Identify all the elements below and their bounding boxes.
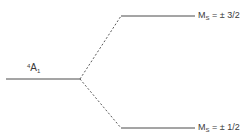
term-subscript: 1 — [37, 68, 40, 74]
upper-level-label: MS = ± 3/2 — [198, 11, 240, 20]
term-multiplicity: 4 — [27, 63, 30, 69]
ground-term-label: 4A1 — [27, 63, 40, 73]
ms-subscript: S — [206, 127, 210, 133]
ms-value: = ± 3/2 — [210, 10, 240, 20]
ms-symbol: M — [198, 122, 206, 132]
lower-level-label: MS = ± 1/2 — [198, 123, 240, 132]
ms-value: = ± 1/2 — [210, 122, 240, 132]
ms-symbol: M — [198, 10, 206, 20]
term-symbol: A — [30, 62, 37, 73]
ms-subscript: S — [206, 15, 210, 21]
lower-dashed-connector — [80, 79, 121, 128]
upper-dashed-connector — [80, 16, 121, 79]
